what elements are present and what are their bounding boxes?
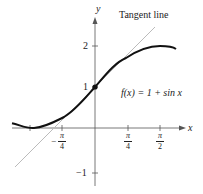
y-tick-2: 2	[83, 40, 88, 51]
y-axis-arrow-icon	[93, 17, 98, 24]
y-tick-1: 1	[83, 81, 88, 92]
x-tick-minus-sign: −	[51, 136, 56, 146]
x-tick-pi-over-2: π2	[156, 132, 164, 151]
x-axis-arrow-icon	[179, 126, 186, 131]
function-label: f(x) = 1 + sin x	[121, 87, 182, 98]
y-axis-label: y	[96, 3, 100, 14]
x-tick-pi-over-4: π4	[124, 132, 132, 151]
tangent-line-label: Tangent line	[119, 9, 169, 20]
x-axis-label: x	[188, 122, 192, 133]
y-tick-minus-1: −1	[76, 167, 87, 178]
chart: y x Tangent line f(x) = 1 + sin x 2 1 −1…	[0, 0, 203, 194]
tangent-point	[92, 84, 97, 89]
x-tick-minus-pi-over-4: π4	[58, 132, 66, 151]
